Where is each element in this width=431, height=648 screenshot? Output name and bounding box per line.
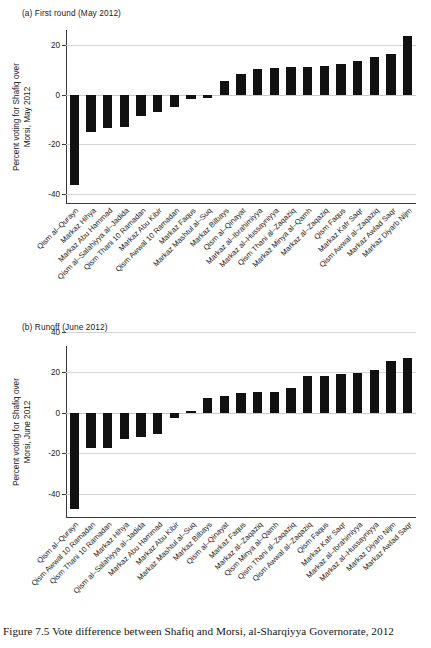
y-axis-tick-label: 0 bbox=[55, 90, 60, 99]
gridline bbox=[66, 45, 416, 46]
bar bbox=[220, 396, 230, 413]
panel-b-y-axis-title: Percent voting for Shafiq over Morsi, Ju… bbox=[12, 378, 33, 486]
gridline bbox=[66, 494, 416, 495]
y-axis-tick-label: -40 bbox=[48, 190, 60, 199]
panel-a-y-axis-line bbox=[66, 30, 67, 204]
panel-b-title: (b) Runoff (June 2012) bbox=[22, 322, 108, 332]
bar bbox=[403, 36, 413, 94]
gridline bbox=[66, 144, 416, 145]
panel-b-y-axis-title-line2: Morsi, June 2012 bbox=[23, 378, 34, 486]
bar bbox=[136, 413, 146, 437]
panel-b-y-axis-title-line1: Percent voting for Shafiq over bbox=[12, 378, 23, 486]
y-axis-tick bbox=[62, 494, 66, 495]
gridline bbox=[66, 95, 416, 96]
bar bbox=[86, 413, 96, 448]
bar bbox=[286, 388, 296, 413]
bar bbox=[303, 376, 313, 413]
bar bbox=[236, 393, 246, 413]
y-axis-tick-label: 20 bbox=[51, 40, 60, 49]
panel-b-x-axis-line bbox=[66, 517, 416, 518]
bar bbox=[336, 374, 346, 412]
y-axis-tick bbox=[62, 95, 66, 96]
bar bbox=[120, 95, 130, 127]
bar bbox=[170, 413, 180, 418]
bar bbox=[386, 54, 396, 95]
y-axis-tick-label: -20 bbox=[48, 140, 60, 149]
gridline bbox=[66, 332, 416, 333]
bar bbox=[403, 358, 413, 413]
y-axis-tick bbox=[62, 413, 66, 414]
bar bbox=[370, 57, 380, 95]
panel-a-y-axis-title: Percent voting for Shafiq over Morsi, Ma… bbox=[12, 63, 33, 171]
bar bbox=[303, 67, 313, 95]
panel-b-plot-area: 40200-20-40 bbox=[66, 346, 416, 518]
y-axis-tick-label: 0 bbox=[55, 408, 60, 417]
bar bbox=[153, 413, 163, 434]
bar bbox=[236, 74, 246, 94]
bar bbox=[286, 67, 296, 95]
bar bbox=[203, 398, 213, 413]
gridline bbox=[66, 194, 416, 195]
bar bbox=[186, 411, 196, 413]
figure-page: (a) First round (May 2012) Percent votin… bbox=[0, 0, 431, 648]
bar bbox=[86, 95, 96, 132]
bar bbox=[103, 95, 113, 129]
bar bbox=[270, 68, 280, 95]
figure-caption: Figure 7.5 Vote difference between Shafi… bbox=[3, 625, 431, 637]
gridline bbox=[66, 372, 416, 373]
bar bbox=[253, 69, 263, 95]
bar bbox=[253, 392, 263, 412]
gridline bbox=[66, 453, 416, 454]
bar bbox=[336, 64, 346, 95]
y-axis-tick bbox=[62, 194, 66, 195]
panel-a-title: (a) First round (May 2012) bbox=[22, 8, 121, 18]
panel-a-y-axis-title-line1: Percent voting for Shafiq over bbox=[12, 63, 23, 171]
y-axis-tick bbox=[62, 144, 66, 145]
bar bbox=[370, 370, 380, 413]
panel-runoff: (b) Runoff (June 2012) Percent voting fo… bbox=[0, 318, 431, 618]
y-axis-tick-label: 20 bbox=[51, 368, 60, 377]
y-axis-tick bbox=[62, 45, 66, 46]
bar bbox=[70, 95, 80, 186]
y-axis-tick-label: -40 bbox=[48, 489, 60, 498]
bar bbox=[320, 66, 330, 95]
bar bbox=[220, 81, 230, 95]
bar bbox=[170, 95, 180, 107]
bar bbox=[353, 61, 363, 95]
bar bbox=[353, 373, 363, 413]
panel-a-x-axis-line bbox=[66, 203, 416, 204]
bar bbox=[103, 413, 113, 448]
panel-a-plot-area: 200-20-40 bbox=[66, 30, 416, 204]
bar bbox=[203, 95, 213, 98]
panel-a-y-axis-title-line2: Morsi, May 2012 bbox=[23, 63, 34, 171]
y-axis-tick bbox=[62, 453, 66, 454]
bar bbox=[270, 392, 280, 413]
y-axis-tick-label: -20 bbox=[48, 449, 60, 458]
y-axis-tick bbox=[62, 332, 66, 333]
panel-first-round: (a) First round (May 2012) Percent votin… bbox=[0, 0, 431, 318]
bar bbox=[136, 95, 146, 116]
bar bbox=[386, 361, 396, 412]
bar bbox=[120, 413, 130, 439]
y-axis-tick-label: 40 bbox=[51, 327, 60, 336]
bar bbox=[320, 376, 330, 413]
bar bbox=[70, 413, 80, 509]
gridline bbox=[66, 413, 416, 414]
bar bbox=[153, 95, 163, 112]
bar bbox=[186, 95, 196, 99]
y-axis-tick bbox=[62, 372, 66, 373]
